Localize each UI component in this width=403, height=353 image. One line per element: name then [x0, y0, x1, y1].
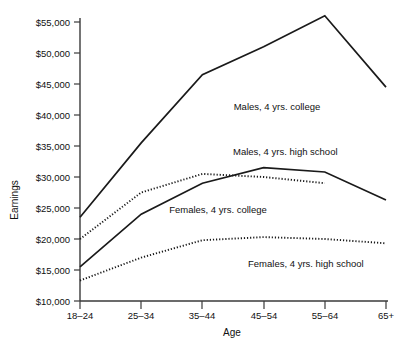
x-tick-label: 18–24 — [67, 310, 93, 321]
y-tick-label: $10,000 — [36, 296, 70, 307]
y-tick-label: $15,000 — [36, 265, 70, 276]
series-label-females-college: Females, 4 yrs. college — [169, 204, 267, 215]
y-axis-title: Earnings — [9, 180, 20, 219]
y-tick-label: $40,000 — [36, 110, 70, 121]
y-tick-label: $30,000 — [36, 172, 70, 183]
y-tick-label: $20,000 — [36, 234, 70, 245]
x-tick-label: 55–64 — [312, 310, 338, 321]
y-tick-label: $50,000 — [36, 48, 70, 59]
x-tick-label: 25–34 — [128, 310, 154, 321]
chart-svg: $10,000 $15,000 $20,000 $25,000 $30,000 … — [0, 0, 403, 353]
earnings-by-age-chart: $10,000 $15,000 $20,000 $25,000 $30,000 … — [0, 0, 403, 353]
y-tick-label: $25,000 — [36, 203, 70, 214]
y-tick-label: $45,000 — [36, 79, 70, 90]
series-label-females-high-school: Females, 4 yrs. high school — [248, 258, 364, 269]
x-tick-label: 65+ — [378, 310, 395, 321]
series-label-males-high-school: Males, 4 yrs. high school — [233, 146, 338, 157]
x-axis-title: Age — [223, 327, 241, 338]
x-tick-label: 45–54 — [251, 310, 277, 321]
y-tick-label: $55,000 — [36, 17, 70, 28]
series-label-males-college: Males, 4 yrs. college — [234, 101, 321, 112]
y-tick-label: $35,000 — [36, 141, 70, 152]
x-tick-label: 35–44 — [189, 310, 215, 321]
